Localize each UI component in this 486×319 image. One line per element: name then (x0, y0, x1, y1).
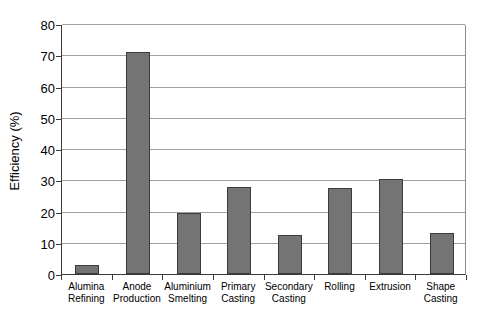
y-tick-mark (56, 25, 61, 26)
gridline-80 (62, 24, 465, 25)
x-axis-label-primary-casting: Primary Casting (213, 281, 264, 305)
x-tick-mark (264, 275, 265, 280)
x-axis-label-shape-casting: Shape Casting (415, 281, 466, 305)
x-tick-mark (112, 275, 113, 280)
gridline-70 (62, 55, 465, 56)
gridline-40 (62, 149, 465, 150)
x-tick-mark (365, 275, 366, 280)
gridline-60 (62, 87, 465, 88)
y-tick-label-10: 10 (41, 236, 55, 251)
x-tick-mark (213, 275, 214, 280)
bar-secondary-casting (278, 235, 302, 274)
y-tick-label-80: 80 (41, 18, 55, 33)
bar-extrusion (379, 179, 403, 274)
x-tick-mark (162, 275, 163, 280)
x-axis-category-labels: Alumina RefiningAnode ProductionAluminiu… (61, 281, 466, 305)
x-tick-mark (415, 275, 416, 280)
bar-aluminium-smelting (177, 213, 201, 274)
x-axis-label-rolling: Rolling (314, 281, 365, 305)
x-axis-label-aluminium-smelting: Aluminium Smelting (162, 281, 213, 305)
bar-shape-casting (430, 233, 454, 274)
y-tick-mark (56, 150, 61, 151)
y-tick-mark (56, 181, 61, 182)
y-tick-mark (56, 56, 61, 57)
y-tick-mark (56, 119, 61, 120)
y-tick-label-50: 50 (41, 111, 55, 126)
bar-alumina-refining (75, 265, 99, 274)
x-tick-mark (466, 275, 467, 280)
x-tick-mark (61, 275, 62, 280)
y-axis-tick-labels: 01020304050607080 (0, 0, 55, 319)
y-tick-label-40: 40 (41, 143, 55, 158)
gridline-10 (62, 243, 465, 244)
bar-rolling (328, 188, 352, 274)
x-axis-label-anode-production: Anode Production (112, 281, 163, 305)
y-tick-label-30: 30 (41, 174, 55, 189)
gridline-20 (62, 212, 465, 213)
y-tick-mark (56, 213, 61, 214)
bar-anode-production (126, 52, 150, 274)
plot-area (61, 25, 466, 275)
y-tick-label-0: 0 (48, 268, 55, 283)
gridline-30 (62, 180, 465, 181)
x-tick-mark (314, 275, 315, 280)
gridline-50 (62, 118, 465, 119)
bar-primary-casting (227, 187, 251, 275)
y-tick-label-20: 20 (41, 205, 55, 220)
x-axis-label-alumina-refining: Alumina Refining (61, 281, 112, 305)
efficiency-bar-chart: Efficiency (%) 01020304050607080 Alumina… (0, 0, 486, 319)
y-tick-mark (56, 244, 61, 245)
y-tick-mark (56, 88, 61, 89)
x-axis-label-extrusion: Extrusion (365, 281, 416, 305)
y-tick-label-60: 60 (41, 80, 55, 95)
y-tick-label-70: 70 (41, 49, 55, 64)
x-axis-label-secondary-casting: Secondary Casting (264, 281, 315, 305)
